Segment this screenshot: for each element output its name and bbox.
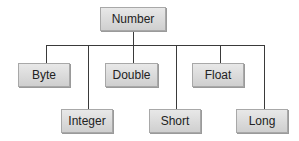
node-long: Long [236, 109, 288, 133]
node-integer: Integer [61, 109, 113, 133]
node-float: Float [192, 63, 244, 87]
connector-double [133, 45, 134, 63]
root-stem [133, 30, 134, 46]
connector-float [220, 45, 221, 63]
node-byte: Byte [18, 63, 70, 87]
connector-short [176, 45, 177, 109]
node-number: Number [100, 7, 166, 31]
connector-long [264, 45, 265, 109]
node-short: Short [149, 109, 201, 133]
horizontal-bus [46, 45, 265, 46]
node-double: Double [105, 63, 158, 87]
connector-integer [88, 45, 89, 109]
connector-byte [46, 45, 47, 63]
